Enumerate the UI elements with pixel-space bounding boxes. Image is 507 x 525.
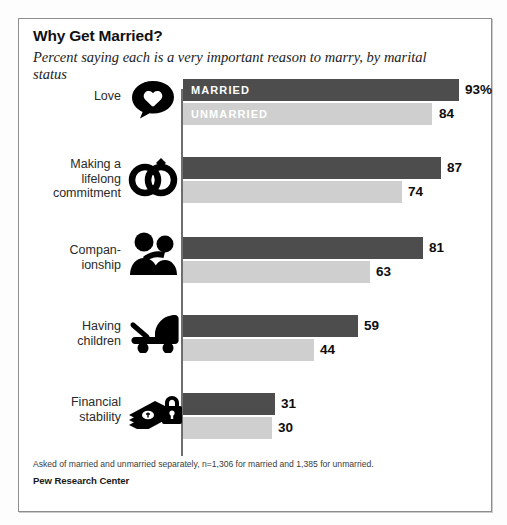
value-label-married-having-children: 59 [364, 318, 379, 333]
bar-group-love: Love MARRIED 93% UNMARRIED 84 [19, 71, 493, 143]
category-label-line: ionship [1, 258, 121, 273]
bar-married-companionship [183, 237, 423, 259]
chart-footnote: Asked of married and unmarried separatel… [33, 459, 481, 470]
value-label-unmarried-love: 84 [439, 106, 454, 121]
category-label-financial-stability: Financial stability [1, 395, 121, 424]
category-label-line: lifelong [1, 172, 121, 187]
couple-icon [127, 231, 179, 275]
value-label-married-love: 93% [465, 82, 492, 97]
source-attribution: Pew Research Center [33, 475, 129, 486]
bar-unmarried-having-children [183, 339, 314, 361]
bar-married-lifelong-commitment [183, 157, 441, 179]
bar-group-companionship: Compan- ionship 81 63 [19, 227, 493, 303]
page-title: Why Get Married? [33, 27, 162, 45]
bar-married-having-children [183, 315, 358, 337]
category-label-line: Financial [1, 395, 121, 410]
category-label-line: Having [1, 319, 121, 334]
bar-married-financial-stability [183, 393, 275, 415]
category-label-companionship: Compan- ionship [1, 243, 121, 272]
bar-group-lifelong-commitment: Making a lifelong commitment 87 74 [19, 147, 493, 223]
category-label-line: children [1, 334, 121, 349]
speech-bubble-heart-icon [127, 79, 179, 119]
bar-group-financial-stability: Financial stability [19, 383, 493, 453]
category-label-line: Making a [1, 157, 121, 172]
chart-page: Why Get Married? Percent saying each is … [0, 0, 507, 525]
value-label-unmarried-lifelong-commitment: 74 [408, 184, 423, 199]
value-label-unmarried-financial-stability: 30 [278, 420, 293, 435]
chart-frame: Why Get Married? Percent saying each is … [18, 18, 492, 512]
category-label-love: Love [1, 89, 121, 104]
bar-married-love: MARRIED [183, 79, 459, 101]
category-label-lifelong-commitment: Making a lifelong commitment [1, 157, 121, 201]
stroller-icon [127, 311, 179, 353]
category-label-having-children: Having children [1, 319, 121, 348]
plot-area: Love MARRIED 93% UNMARRIED 84 [19, 71, 493, 449]
value-label-unmarried-having-children: 44 [320, 342, 335, 357]
bar-unmarried-lifelong-commitment [183, 181, 402, 203]
bar-unmarried-companionship [183, 261, 370, 283]
category-label-line: Compan- [1, 243, 121, 258]
wedding-rings-icon [127, 155, 179, 197]
bar-unmarried-financial-stability [183, 417, 272, 439]
category-label-line: commitment [1, 186, 121, 201]
category-label-line: Love [1, 89, 121, 104]
money-lock-icon [127, 387, 179, 429]
category-label-line: stability [1, 410, 121, 425]
legend-unmarried-label: UNMARRIED [191, 108, 268, 120]
value-label-married-companionship: 81 [429, 240, 444, 255]
value-label-married-financial-stability: 31 [281, 396, 296, 411]
legend-married-label: MARRIED [191, 84, 250, 96]
bar-unmarried-love: UNMARRIED [183, 103, 432, 125]
value-label-married-lifelong-commitment: 87 [447, 160, 462, 175]
bar-group-having-children: Having children 59 44 [19, 305, 493, 381]
value-label-unmarried-companionship: 63 [376, 264, 391, 279]
